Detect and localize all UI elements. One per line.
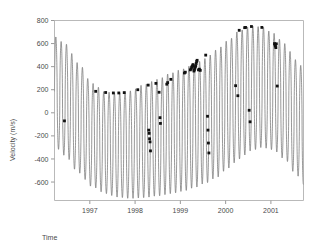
model-velocity-curve	[55, 26, 304, 198]
y-tick-label: 200	[37, 86, 49, 93]
data-point-marker	[196, 59, 199, 62]
y-axis-title: Velocity (m/s)	[9, 119, 17, 161]
velocity-axis: 8006004002000-200-400-600	[34, 17, 54, 186]
y-tick-label: -400	[34, 156, 48, 163]
data-point-marker	[275, 42, 278, 45]
data-point-marker	[236, 94, 239, 97]
data-point-marker	[104, 91, 107, 94]
y-tick-label: 400	[37, 63, 49, 70]
data-point-marker	[149, 140, 152, 143]
data-point-marker	[248, 109, 251, 112]
data-point-marker	[159, 116, 162, 119]
data-point-marker	[260, 26, 263, 29]
y-tick-label: 800	[37, 17, 49, 24]
x-tick-label: 2001	[263, 207, 279, 214]
data-point-marker	[63, 119, 66, 122]
data-point-marker	[238, 29, 241, 32]
data-point-marker	[234, 84, 237, 87]
data-point-marker	[207, 142, 210, 145]
data-point-marker	[276, 85, 279, 88]
data-point-marker	[159, 122, 162, 125]
data-point-marker	[148, 132, 151, 135]
data-point-marker	[207, 152, 210, 155]
data-point-marker	[207, 129, 210, 132]
x-tick-label: 2000	[218, 207, 234, 214]
data-point-marker	[94, 90, 97, 93]
data-point-marker	[184, 71, 187, 74]
data-point-marker	[158, 91, 161, 94]
data-point-marker	[123, 91, 126, 94]
data-point-marker	[274, 46, 277, 49]
x-axis-title: Time	[42, 234, 57, 241]
data-point-marker	[136, 88, 139, 91]
data-point-marker	[112, 92, 115, 95]
x-tick-label: 1999	[173, 207, 189, 214]
data-point-marker	[244, 26, 247, 29]
data-point-marker	[166, 81, 169, 84]
data-point-marker	[147, 84, 150, 87]
data-point-marker	[155, 82, 158, 85]
data-point-marker	[117, 92, 120, 95]
data-point-marker	[148, 137, 151, 140]
data-point-marker	[250, 25, 253, 28]
data-point-marker	[206, 115, 209, 118]
data-point-marker	[147, 129, 150, 132]
y-tick-label: 600	[37, 40, 49, 47]
time-axis: 19971998199920002001	[82, 201, 279, 214]
y-tick-label: -200	[34, 132, 48, 139]
data-point-marker	[249, 120, 252, 123]
data-point-marker	[169, 78, 172, 81]
velocity-time-chart: 8006004002000-200-400-600 19971998199920…	[0, 0, 320, 249]
y-tick-label: 0	[45, 109, 49, 116]
x-tick-label: 1998	[127, 207, 143, 214]
data-point-marker	[149, 149, 152, 152]
y-tick-label: -600	[34, 179, 48, 186]
data-point-marker	[204, 54, 207, 57]
data-point-marker	[199, 69, 202, 72]
x-tick-label: 1997	[82, 207, 98, 214]
